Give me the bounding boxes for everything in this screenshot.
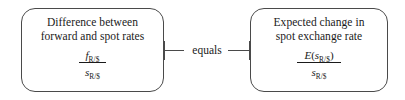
numerator-subscript: R/$ <box>319 55 330 64</box>
diagram-canvas: Difference between forward and spot rate… <box>0 0 405 100</box>
difference-box-caption: Difference between forward and spot rate… <box>41 16 145 43</box>
difference-box-formula: fR/$ sR/$ <box>79 49 107 78</box>
connector: equals <box>164 33 250 67</box>
formula-numerator: fR/$ <box>79 49 107 63</box>
denominator-subscript: R/$ <box>89 72 100 81</box>
connector-right-line <box>228 50 250 51</box>
difference-box-caption-line1: Difference between <box>41 16 145 30</box>
numerator-subscript: R/$ <box>89 55 100 64</box>
numerator-close-paren: ) <box>330 49 334 61</box>
connector-label: equals <box>184 42 230 58</box>
formula-numerator: E(sR/$) <box>297 49 340 63</box>
expected-change-box-caption-line2: spot exchange rate <box>274 30 365 44</box>
denominator-subscript: R/$ <box>316 72 327 81</box>
difference-box-caption-line2: forward and spot rates <box>41 30 145 44</box>
expected-change-box-caption-line1: Expected change in <box>274 16 365 30</box>
formula-denominator: sR/$ <box>311 63 326 78</box>
formula-denominator: sR/$ <box>85 63 100 78</box>
difference-box: Difference between forward and spot rate… <box>21 8 164 92</box>
expected-change-box: Expected change in spot exchange rate E(… <box>250 8 388 92</box>
connector-left-line <box>164 50 185 51</box>
expected-change-box-formula: E(sR/$) sR/$ <box>297 49 340 78</box>
expected-change-box-caption: Expected change in spot exchange rate <box>274 16 365 43</box>
